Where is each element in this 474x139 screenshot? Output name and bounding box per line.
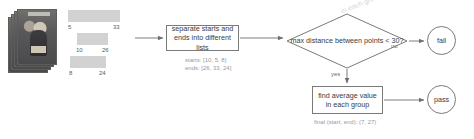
- interval-bar: [70, 56, 106, 68]
- interval-start-label: 8: [69, 69, 72, 77]
- photo-caption-band: [31, 46, 46, 53]
- interval-bar-chart: 5 33 10 26 8 24: [68, 10, 130, 78]
- node-average-line2: in each group: [318, 100, 377, 110]
- interval-bar: [77, 33, 108, 45]
- node-separate-line1: separate starts and: [169, 24, 236, 34]
- node-decision-line1: max distance between: [291, 36, 363, 45]
- interval-end-label: 24: [99, 69, 106, 77]
- node-average-line1: find average value: [318, 91, 377, 101]
- node-pass-label: pass: [434, 95, 449, 104]
- edge-label-no: no: [391, 42, 398, 50]
- node-decision-max-distance[interactable]: max distance between points < 30?: [286, 13, 408, 69]
- photo-card-front: [17, 9, 57, 65]
- interval-start-label: 10: [76, 46, 83, 54]
- node-fail-label: fail: [437, 36, 446, 45]
- annotation-ends: ends: [26, 33, 24]: [185, 64, 231, 73]
- interval-bar: [68, 10, 120, 22]
- annotation-final: final (start, end): (7, 27): [314, 118, 376, 127]
- node-fail-terminal[interactable]: fail: [427, 26, 456, 55]
- flowchart-canvas: 5 33 10 26 8 24 separate starts and ends…: [0, 0, 474, 139]
- edge-label-yes: yes: [331, 70, 340, 78]
- interval-start-label: 5: [68, 23, 71, 31]
- interval-end-label: 26: [102, 46, 109, 54]
- node-separate-line2: ends into different lists: [169, 33, 236, 52]
- node-decision-label: max distance between points < 30?: [286, 13, 408, 69]
- photo-highlight: [28, 12, 50, 16]
- node-find-average[interactable]: find average value in each group: [312, 86, 383, 114]
- interval-end-label: 33: [113, 23, 120, 31]
- node-pass-terminal[interactable]: pass: [427, 85, 456, 114]
- node-separate-starts-ends[interactable]: separate starts and ends into different …: [166, 25, 239, 51]
- photo-stack[interactable]: [8, 9, 62, 75]
